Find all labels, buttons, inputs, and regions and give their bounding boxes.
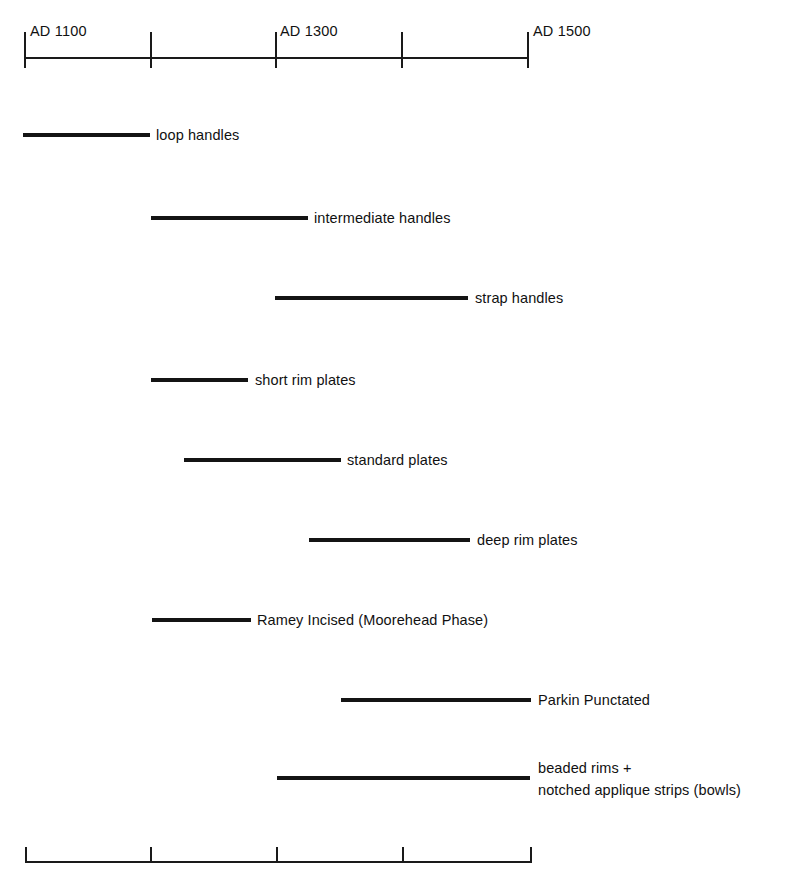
bottom-axis-tick <box>150 847 152 863</box>
range-label-standard-plates: standard plates <box>347 451 448 470</box>
chronology-chart: AD 1100AD 1300AD 1500 loop handlesinterm… <box>0 0 806 891</box>
bottom-axis-tick <box>25 847 27 863</box>
top-axis-tick <box>401 32 403 68</box>
range-label-intermediate-handles: intermediate handles <box>314 209 451 228</box>
range-bar-beaded-rims-notched-applique-strips-bowls <box>277 776 530 780</box>
range-bar-deep-rim-plates <box>309 538 470 542</box>
range-bar-short-rim-plates <box>151 378 248 382</box>
top-axis-tick <box>275 32 277 68</box>
bottom-axis-tick <box>276 847 278 863</box>
top-axis-tick <box>24 32 26 68</box>
range-label-loop-handles: loop handles <box>156 126 239 145</box>
range-label-deep-rim-plates: deep rim plates <box>477 531 578 550</box>
range-label-parkin-punctated: Parkin Punctated <box>538 691 650 710</box>
range-bar-strap-handles <box>275 296 468 300</box>
bottom-axis-tick <box>530 847 532 863</box>
range-bar-parkin-punctated <box>341 698 531 702</box>
range-label-short-rim-plates: short rim plates <box>255 371 356 390</box>
range-label-strap-handles: strap handles <box>475 289 563 308</box>
bottom-axis-tick <box>402 847 404 863</box>
top-axis-tick <box>527 32 529 68</box>
range-bar-loop-handles <box>23 133 150 137</box>
top-axis-tick-label: AD 1100 <box>30 24 87 39</box>
range-bar-standard-plates <box>184 458 341 462</box>
range-bar-ramey-incised-moorehead-phase <box>152 618 251 622</box>
top-axis-tick-label: AD 1500 <box>533 24 591 39</box>
range-bar-intermediate-handles <box>151 216 308 220</box>
range-label-ramey-incised-moorehead-phase: Ramey Incised (Moorehead Phase) <box>257 611 488 630</box>
top-axis-tick <box>150 32 152 68</box>
bottom-axis-line <box>25 861 531 863</box>
top-axis-tick-label: AD 1300 <box>280 24 338 39</box>
range-label-beaded-rims-notched-applique-strips-bowls: beaded rims + notched applique strips (b… <box>538 757 741 801</box>
